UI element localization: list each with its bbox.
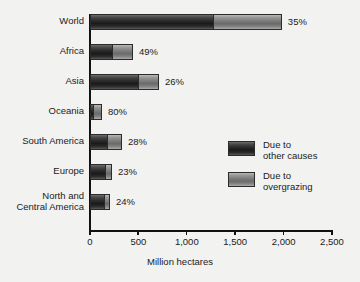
bar-segment-other-causes-north-and-central-america <box>91 195 104 209</box>
x-axis-tick-2500 <box>331 230 333 235</box>
x-axis-tick-label-500: 500 <box>130 236 146 247</box>
category-label-europe: Europe <box>0 166 84 177</box>
bar-value-label-world: 35% <box>288 14 307 30</box>
bar-asia <box>90 74 159 90</box>
bar-segment-overgrazing-oceania <box>93 105 101 119</box>
category-label-south-america: South America <box>0 136 84 147</box>
x-axis-tick-1500 <box>234 230 236 235</box>
legend-item-overgrazing: Due to overgrazing <box>228 171 346 192</box>
category-axis-labels: World Africa Asia Oceania South America … <box>0 14 84 230</box>
x-axis-tick-label-0: 0 <box>87 236 92 247</box>
x-axis-tick-label-2500: 2,500 <box>320 236 344 247</box>
category-label-world: World <box>0 16 84 27</box>
bar-europe <box>90 164 112 180</box>
bar-segment-overgrazing-europe <box>105 165 111 179</box>
category-label-north-and-central-america-line2: Central America <box>0 202 84 213</box>
bar-value-label-south-america: 28% <box>128 134 147 150</box>
legend-label-other-causes: Due to other causes <box>263 140 317 161</box>
bar-segment-other-causes-south-america <box>91 135 107 149</box>
category-label-oceania: Oceania <box>0 106 84 117</box>
bar-south-america <box>90 134 122 150</box>
bar-segment-other-causes-world <box>91 15 213 29</box>
legend-swatch-overgrazing <box>228 172 255 187</box>
bar-chart: World Africa Asia Oceania South America … <box>0 0 360 282</box>
bar-segment-other-causes-africa <box>91 45 112 59</box>
legend-label-overgrazing: Due to overgrazing <box>263 171 313 192</box>
x-axis-title: Million hectares <box>0 256 360 267</box>
bar-value-label-africa: 49% <box>139 44 158 60</box>
bar-segment-overgrazing-south-america <box>107 135 121 149</box>
legend: Due to other causes Due to overgrazing <box>228 140 346 202</box>
bar-value-label-oceania: 80% <box>108 104 127 120</box>
bar-value-label-europe: 23% <box>118 164 137 180</box>
x-axis-tick-label-1500: 1,500 <box>223 236 247 247</box>
bar-oceania <box>90 104 102 120</box>
bar-north-and-central-america <box>90 194 110 210</box>
bar-value-label-asia: 26% <box>165 74 184 90</box>
category-label-asia: Asia <box>0 76 84 87</box>
x-axis-tick-2000 <box>283 230 285 235</box>
x-axis-tick-1000 <box>186 230 188 235</box>
bar-segment-other-causes-europe <box>91 165 105 179</box>
bar-segment-overgrazing-north-and-central-america <box>104 195 109 209</box>
bar-value-label-north-and-central-america: 24% <box>116 194 135 210</box>
bar-segment-other-causes-asia <box>91 75 138 89</box>
bar-world <box>90 14 282 30</box>
bar-segment-overgrazing-asia <box>138 75 158 89</box>
x-axis-tick-label-1000: 1,000 <box>175 236 199 247</box>
x-axis-tick-500 <box>137 230 139 235</box>
x-axis-tick-label-2000: 2,000 <box>272 236 296 247</box>
category-label-africa: Africa <box>0 46 84 57</box>
bar-africa <box>90 44 133 60</box>
x-axis-line <box>89 230 333 232</box>
legend-swatch-other-causes <box>228 141 255 156</box>
x-axis-tick-0 <box>89 230 91 235</box>
bar-segment-overgrazing-world <box>213 15 281 29</box>
legend-item-other-causes: Due to other causes <box>228 140 346 161</box>
bar-segment-overgrazing-africa <box>112 45 132 59</box>
category-label-north-and-central-america-line1: North and <box>0 191 84 202</box>
